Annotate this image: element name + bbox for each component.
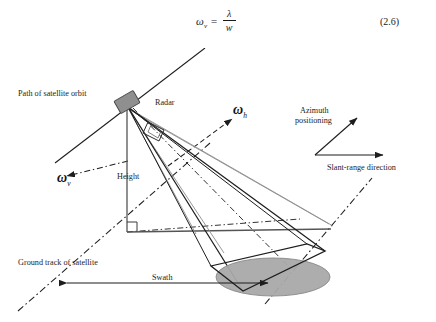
label-azimuth-line2: positioning [295,116,332,126]
omega-v-equation-symbol: ω [196,15,204,27]
satellite-body [114,90,140,113]
figure-page: ωv = λ w (2.6) [0,0,436,322]
equation-expression: ωv = λ w [196,10,238,34]
fraction: λ w [223,9,236,33]
equation-block: ωv = λ w (2.6) [0,4,436,48]
right-angle-marker [127,222,137,232]
fraction-numerator: λ [223,9,236,19]
label-radar: Radar [155,98,175,108]
omega-v-equation-subscript: v [204,22,207,30]
label-orbit-path: Path of satellite orbit [18,89,86,99]
label-swath: Swath [152,273,172,283]
label-ground-track: Ground track of satellite [18,258,98,268]
equation-number: (2.6) [380,16,399,27]
ground-track-line [18,143,210,311]
label-omega-v: ωv [57,170,70,188]
label-slant-range: Slant-range direction [327,163,396,173]
label-height: Height [117,172,139,182]
label-azimuth-line1: Azimuth [300,106,329,116]
label-omega-h: ωh [233,102,247,120]
fraction-bar [223,20,236,21]
fraction-denominator: w [223,22,236,33]
equals-sign: = [210,15,218,27]
sar-geometry-diagram: Path of satellite orbit Radar Height ωv … [0,48,436,322]
